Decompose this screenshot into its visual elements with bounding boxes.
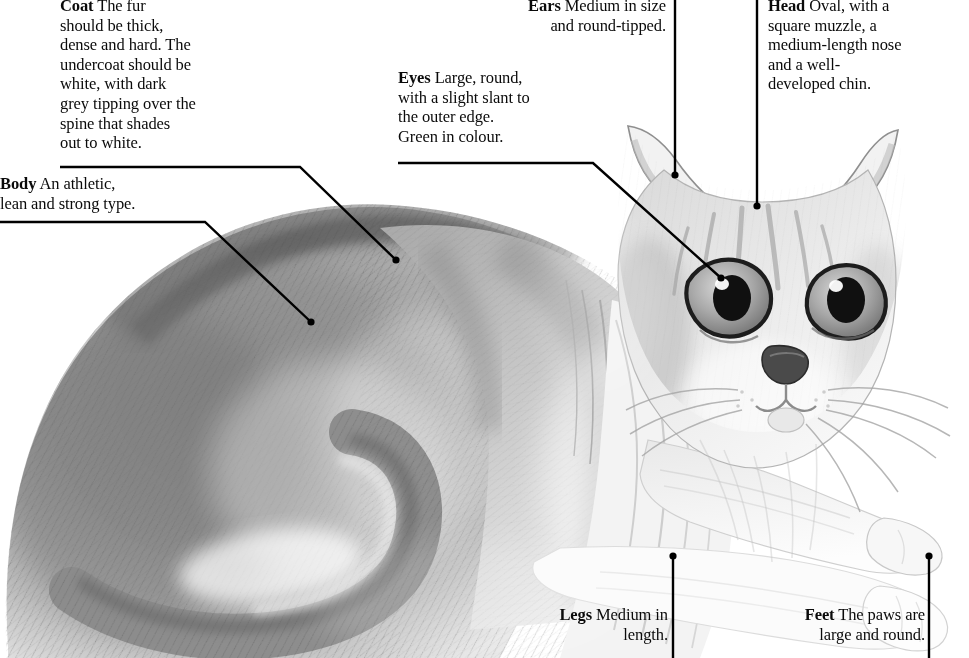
leader-dot-ears (671, 171, 678, 178)
leader-dot-feet (925, 552, 932, 559)
callout-term-feet: Feet (805, 605, 835, 624)
callout-text-legs: Medium in length. (592, 605, 668, 644)
callout-term-legs: Legs (559, 605, 592, 624)
callout-term-head: Head (768, 0, 805, 15)
leader-line-body (0, 222, 311, 322)
callout-term-coat: Coat (60, 0, 94, 15)
callout-coat: Coat The fur should be thick, dense and … (60, 0, 310, 153)
leader-dot-legs (669, 552, 676, 559)
callout-text-coat: The fur should be thick, dense and hard.… (60, 0, 196, 152)
callout-term-eyes: Eyes (398, 68, 431, 87)
leader-dot-eyes (717, 274, 724, 281)
callout-legs: Legs Medium in length. (500, 605, 668, 644)
callout-term-ears: Ears (528, 0, 561, 15)
leader-dot-coat (392, 256, 399, 263)
leader-dot-body (307, 318, 314, 325)
leader-dot-head (753, 202, 760, 209)
callout-ears: Ears Medium in size and round-tipped. (398, 0, 666, 35)
diagram-page: Coat The fur should be thick, dense and … (0, 0, 969, 658)
leader-line-eyes (398, 163, 721, 278)
callout-body: Body An athletic, lean and strong type. (0, 174, 250, 213)
callout-term-body: Body (0, 174, 36, 193)
callout-feet: Feet The paws are large and round. (745, 605, 925, 644)
callout-text-feet: The paws are large and round. (819, 605, 925, 644)
callout-eyes: Eyes Large, round, with a slight slant t… (398, 68, 613, 146)
callout-text-ears: Medium in size and round-tipped. (550, 0, 666, 35)
callout-head: Head Oval, with a square muzzle, a mediu… (768, 0, 969, 94)
